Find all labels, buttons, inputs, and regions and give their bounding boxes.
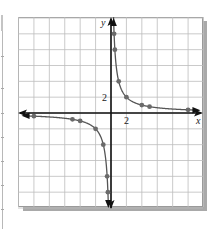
data-point	[124, 95, 129, 100]
data-point	[32, 114, 37, 119]
data-point	[78, 119, 83, 124]
chart-svg: y x 2 2	[0, 0, 214, 229]
data-point	[116, 79, 121, 84]
x-tick-label: 2	[124, 115, 129, 126]
data-point	[93, 126, 98, 131]
y-tick-label: 2	[102, 92, 107, 103]
data-point	[105, 174, 110, 179]
data-point	[101, 142, 106, 147]
data-point	[112, 31, 117, 36]
data-point	[139, 103, 144, 108]
data-point	[147, 104, 152, 109]
axes	[18, 17, 203, 209]
data-point	[70, 117, 75, 122]
data-point	[106, 190, 111, 195]
y-axis-label: y	[100, 17, 106, 28]
x-axis-label: x	[195, 115, 201, 126]
data-point	[186, 107, 191, 112]
data-point	[112, 47, 117, 52]
